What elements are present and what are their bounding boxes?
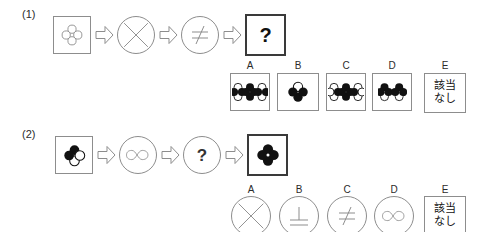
clover-4-black-icon — [256, 143, 280, 167]
arrow-right-icon — [225, 145, 244, 165]
problem1-option-c[interactable] — [326, 73, 366, 111]
not-equal-icon — [187, 22, 213, 48]
problem1-option-c-label: C — [326, 60, 366, 71]
problem2-arrow-2 — [161, 145, 180, 165]
problem1-arrow-2 — [159, 25, 178, 45]
arrow-right-icon — [95, 25, 114, 45]
problem1-option-a-label: A — [230, 60, 270, 71]
problem1-input-box — [53, 16, 91, 54]
not-equal-icon — [334, 203, 360, 229]
problem1-operator-1 — [117, 16, 155, 54]
problem2-option-d-label: D — [374, 184, 414, 195]
two-clovers-black-icon — [378, 82, 407, 102]
problem2-option-a[interactable] — [231, 196, 271, 232]
problem2-option-e-label: E — [424, 184, 466, 195]
arrow-right-icon — [97, 145, 116, 165]
problem1-option-d[interactable] — [372, 73, 412, 111]
problem1-option-b[interactable] — [277, 73, 319, 111]
problem1-option-a[interactable] — [230, 73, 270, 111]
problem-number-1: (1) — [22, 8, 35, 20]
one-clover-black-icon — [287, 81, 309, 103]
problem2-operator-unknown[interactable]: ? — [183, 136, 221, 174]
problem2-arrow-3 — [225, 145, 244, 165]
problem2-input-box — [55, 136, 93, 174]
problem1-arrow-3 — [223, 25, 242, 45]
problem1-arrow-1 — [95, 25, 114, 45]
problem1-operator-2 — [181, 16, 219, 54]
problem1-option-e-label: E — [424, 60, 466, 71]
perpendicular-icon — [286, 203, 312, 229]
problem2-option-b-label: B — [279, 184, 319, 195]
problem2-option-c[interactable] — [327, 196, 367, 232]
circled-cross-icon — [232, 196, 270, 232]
worksheet-canvas: (1) — [0, 0, 482, 232]
arrow-right-icon — [159, 25, 178, 45]
option-e-line-2: なし — [434, 93, 456, 106]
problem1-option-d-label: D — [372, 60, 412, 71]
problem2-option-c-label: C — [327, 184, 367, 195]
question-mark-label: ? — [197, 147, 207, 164]
clover-4-outline-icon — [61, 24, 83, 46]
arrow-right-icon — [223, 25, 242, 45]
problem2-output-box — [247, 134, 288, 176]
problem1-option-b-label: B — [277, 60, 319, 71]
problem2-option-e-text: 該当 なし — [434, 203, 456, 229]
option-e-line-2: なし — [434, 216, 456, 229]
problem1-answer-slot[interactable]: ? — [245, 14, 286, 56]
question-mark-label: ? — [259, 25, 271, 45]
problem2-operator-1 — [119, 136, 157, 174]
problem2-option-e[interactable]: 該当 なし — [424, 196, 466, 232]
arrow-right-icon — [161, 145, 180, 165]
problem-number-2: (2) — [22, 128, 35, 140]
problem2-option-d[interactable] — [374, 196, 414, 232]
problem1-option-e[interactable]: 該当 なし — [424, 73, 466, 113]
three-clovers-open-ends-icon — [328, 82, 364, 102]
problem2-arrow-1 — [97, 145, 116, 165]
circled-cross-icon — [118, 16, 154, 54]
infinity-icon — [125, 147, 151, 163]
problem1-option-e-text: 該当 なし — [434, 80, 456, 106]
infinity-icon — [381, 208, 407, 224]
clover-4-half-black-icon — [63, 144, 86, 167]
problem2-option-b[interactable] — [279, 196, 319, 232]
problem2-option-a-label: A — [231, 184, 271, 195]
three-clovers-wbw-icon — [232, 82, 268, 102]
